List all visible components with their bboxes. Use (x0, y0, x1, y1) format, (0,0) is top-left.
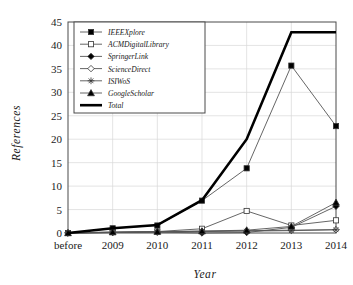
data-point-marker (244, 166, 249, 171)
y-axis-title: References (10, 105, 23, 162)
legend-label: GoogleScholar (108, 89, 154, 98)
data-point-marker (333, 218, 338, 223)
x-tick-label: 2010 (146, 239, 169, 251)
data-point-marker (88, 42, 93, 47)
y-tick-label: 40 (51, 39, 63, 51)
x-tick-label: 2011 (191, 239, 213, 251)
y-tick-label: 20 (51, 133, 63, 145)
y-tick-label: 30 (51, 86, 63, 98)
legend-label: IEEEXplore (107, 28, 145, 37)
y-tick-label: 10 (51, 180, 63, 192)
x-axis-title: Year (193, 268, 216, 280)
x-tick-label: 2013 (280, 239, 303, 251)
data-point-marker (333, 199, 340, 205)
x-tick-label: 2014 (325, 239, 348, 251)
legend-label: SpringerLink (108, 52, 149, 61)
legend-label: ISIWoS (107, 77, 130, 86)
y-tick-label: 45 (51, 16, 63, 28)
legend-label: ACMDigitalLibrary (107, 40, 169, 49)
y-tick-label: 35 (51, 63, 63, 75)
legend-label: Total (108, 101, 123, 110)
data-point-marker (333, 123, 338, 128)
y-tick-label: 25 (51, 110, 63, 122)
x-tick-label: 2012 (236, 239, 258, 251)
data-point-marker (88, 29, 93, 34)
y-tick-label: 0 (57, 227, 63, 239)
x-tick-label: 2009 (102, 239, 125, 251)
y-tick-label: 5 (57, 204, 63, 216)
x-tick-label: before (54, 239, 82, 251)
chart-canvas: 051015202530354045 before200920102011201… (0, 0, 353, 285)
data-point-marker (289, 63, 294, 68)
y-tick-label: 15 (51, 157, 63, 169)
y-axis-tick-labels: 051015202530354045 (51, 16, 63, 239)
data-point-marker (244, 208, 249, 213)
legend-label: ScienceDirect (108, 65, 151, 74)
chart-legend: IEEEXploreACMDigitalLibrarySpringerLinkS… (74, 22, 205, 113)
data-point-marker (333, 226, 340, 233)
x-axis-tick-labels: before200920102011201220132014 (54, 239, 348, 251)
references-per-year-chart: 051015202530354045 before200920102011201… (0, 0, 353, 285)
